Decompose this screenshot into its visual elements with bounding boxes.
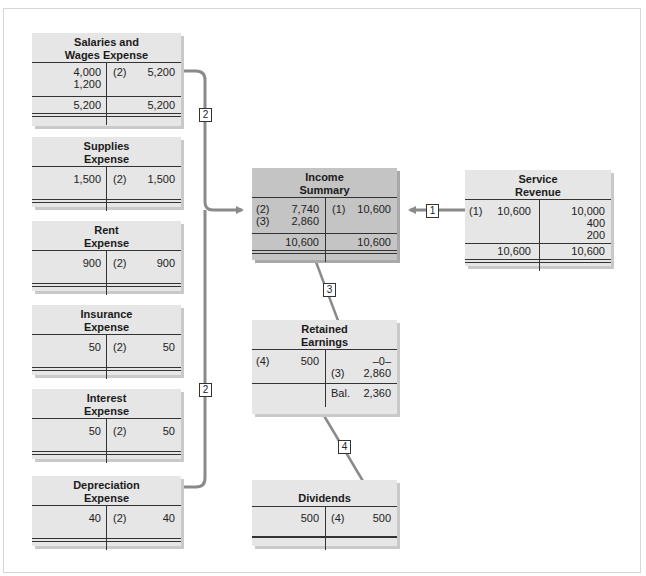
account-service-revenue: ServiceRevenue (1) 10,600 10,000 400 200… <box>465 170 611 266</box>
account-dividends: Dividends 500 (4) 500 <box>252 480 397 546</box>
credit-tag: (2) <box>113 341 126 353</box>
debit-value: 50 <box>89 341 101 353</box>
account-interest-expense: InterestExpense 50 (2) 50 <box>32 389 181 459</box>
credit-tag: (3) <box>331 367 344 379</box>
balance-value: 2,360 <box>363 387 391 399</box>
credit-tag: (1) <box>332 203 345 215</box>
credit-value: 40 <box>163 512 175 524</box>
total-credit: 5,200 <box>147 99 175 111</box>
account-salaries-wages-expense: Salaries and Wages Expense 4,000 (2) 5,2… <box>32 33 181 126</box>
debit-tag: (4) <box>256 355 269 367</box>
opening-balance: –0– <box>373 355 391 367</box>
debit-tag: (3) <box>256 215 269 227</box>
debit-value: 40 <box>89 512 101 524</box>
step-label-2: 2 <box>199 108 212 122</box>
credit-tag: (2) <box>113 173 126 185</box>
account-rent-expense: RentExpense 900 (2) 900 <box>32 221 181 291</box>
credit-value: 50 <box>163 425 175 437</box>
account-supplies-expense: SuppliesExpense 1,500 (2) 1,500 <box>32 137 181 207</box>
debit-value: 50 <box>89 425 101 437</box>
step-label-1: 1 <box>426 204 439 218</box>
credit-tag: (2) <box>113 257 126 269</box>
credit-value: 500 <box>373 512 391 524</box>
debit-value: 1,500 <box>73 173 101 185</box>
account-insurance-expense: InsuranceExpense 50 (2) 50 <box>32 305 181 375</box>
credit-value: 50 <box>163 341 175 353</box>
total-debit: 5,200 <box>73 99 101 111</box>
credit-value: 400 <box>587 217 605 229</box>
credit-tag: (2) <box>113 425 126 437</box>
debit-value: 10,600 <box>497 205 531 217</box>
step-label-3: 3 <box>323 283 336 297</box>
credit-tag: (2) <box>113 66 126 78</box>
credit-value: 10,000 <box>571 205 605 217</box>
total-debit: 10,600 <box>285 236 319 248</box>
step-label-4: 4 <box>338 440 351 454</box>
credit-value: 2,860 <box>363 367 391 379</box>
debit-value: 500 <box>301 355 319 367</box>
debit-tag: (2) <box>256 203 269 215</box>
balance-tag: Bal. <box>331 387 350 399</box>
debit-value: 7,740 <box>291 203 319 215</box>
total-credit: 10,600 <box>571 245 605 257</box>
debit-value: 2,860 <box>291 215 319 227</box>
credit-value: 1,500 <box>147 173 175 185</box>
debit-value: 900 <box>83 257 101 269</box>
account-income-summary: IncomeSummary (2) 7,740 (1) 10,600 (3) 2… <box>252 168 397 260</box>
credit-value: 900 <box>157 257 175 269</box>
total-debit: 10,600 <box>497 245 531 257</box>
credit-tag: (2) <box>113 512 126 524</box>
debit-value: 1,200 <box>73 78 101 90</box>
debit-tag: (1) <box>469 205 482 217</box>
debit-value: 4,000 <box>73 66 101 78</box>
account-title: Salaries and Wages Expense <box>32 33 181 63</box>
account-retained-earnings: RetainedEarnings (4) 500 –0– (3) 2,860 B… <box>252 320 397 414</box>
credit-value: 5,200 <box>147 66 175 78</box>
credit-tag: (4) <box>331 512 344 524</box>
account-depreciation-expense: DepreciationExpense 40 (2) 40 <box>32 476 181 546</box>
debit-value: 500 <box>301 512 319 524</box>
step-label-2: 2 <box>199 383 212 397</box>
credit-value: 10,600 <box>357 203 391 215</box>
total-credit: 10,600 <box>357 236 391 248</box>
credit-value: 200 <box>587 229 605 241</box>
